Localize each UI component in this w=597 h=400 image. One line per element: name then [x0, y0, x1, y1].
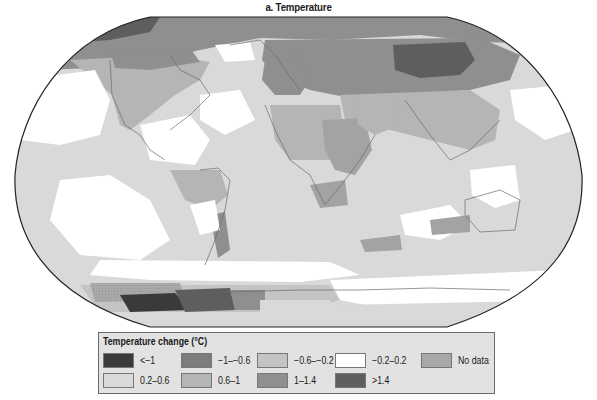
legend-swatch — [257, 353, 288, 368]
legend-label: No data — [458, 355, 489, 366]
legend-item-06-1: 0.6–1 — [181, 372, 243, 389]
legend: Temperature change (°C) <−1 −1–−0.6 −0.6… — [98, 332, 495, 394]
legend-swatch — [257, 373, 288, 388]
legend-item-no-data: No data — [421, 352, 493, 369]
legend-item-lt-neg1: <−1 — [103, 352, 157, 369]
legend-swatch — [103, 353, 134, 368]
legend-title: Temperature change (°C) — [103, 336, 207, 347]
legend-item-neg06-neg02: −0.6–−0.2 — [257, 352, 339, 369]
legend-label: −0.2–0.2 — [372, 355, 407, 366]
legend-item-1-14: 1–1.4 — [257, 372, 319, 389]
legend-label: 0.6–1 — [218, 375, 240, 386]
legend-item-gt-14: >1.4 — [335, 372, 392, 389]
legend-label: 1–1.4 — [294, 375, 316, 386]
legend-label: −0.6–−0.2 — [294, 355, 334, 366]
legend-label: <−1 — [140, 355, 155, 366]
legend-swatch — [421, 353, 452, 368]
world-temperature-map — [0, 0, 597, 332]
legend-swatch — [335, 373, 366, 388]
legend-swatch — [181, 353, 212, 368]
legend-label: −1–−0.6 — [218, 355, 250, 366]
legend-item-neg02-02: −0.2–0.2 — [335, 352, 411, 369]
legend-label: >1.4 — [372, 375, 389, 386]
legend-item-neg1-neg06: −1–−0.6 — [181, 352, 255, 369]
legend-label: 0.2–0.6 — [140, 375, 169, 386]
legend-swatch — [181, 373, 212, 388]
legend-swatch — [103, 373, 134, 388]
legend-swatch — [335, 353, 366, 368]
legend-item-02-06: 0.2–0.6 — [103, 372, 173, 389]
